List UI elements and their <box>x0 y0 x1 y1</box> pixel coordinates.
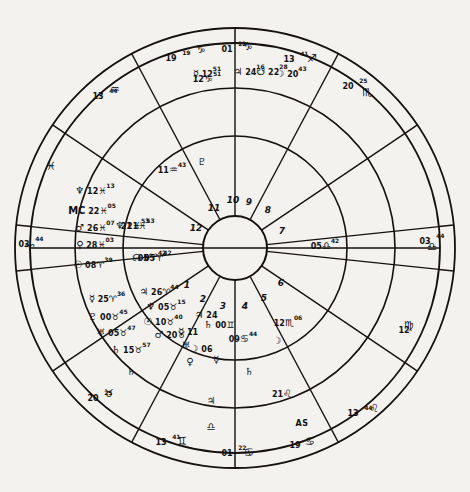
inner-cusp-leo-21: 21♌ <box>272 384 292 400</box>
cusp-line-10 <box>31 251 203 269</box>
planet-pluto-taurus: ♇ 00♉45 <box>88 307 127 323</box>
zodiac-divider-11 <box>16 225 31 227</box>
inner-cusp-aquarius-11: 11♒43 <box>158 160 186 176</box>
cusp-scorpio-20: 20 25 <box>342 76 367 92</box>
cusp-aquarius-13: 13 44 <box>92 86 117 102</box>
planet-pluto-aquarius: ♇ <box>198 152 207 168</box>
planet-saturn-gemini: ♄ 00♊ <box>204 315 235 331</box>
house-number-4: 4 <box>242 301 248 311</box>
planet-uranus-taurus: ♅ 05♉47 <box>96 323 135 339</box>
zodiac-divider-1 <box>331 54 338 67</box>
cusp-aries-03-ascendant: 03 44 <box>18 234 43 250</box>
planet-saturn-cancer: ♄ <box>245 362 254 378</box>
inner-cusp-cancer-09: 09♋44 <box>229 329 257 345</box>
cusp-leo-13-ascendant-side: 13 44 <box>347 403 372 419</box>
zodiac-divider-6 <box>331 429 338 442</box>
planet-libra-bottom: ♎ <box>207 417 216 433</box>
planet-jupiter-aries: ♃ 26♈44 <box>139 282 178 298</box>
planet-mercury-aries: ☿ 25♈36 <box>89 289 126 305</box>
planet-saturn-taurus: ♄ 15♉57 <box>111 340 150 356</box>
cusp-libra-03-descendant: 03 44 <box>419 231 444 247</box>
cusp-capricorn-19: 19 19 <box>165 48 190 64</box>
house-number-1: 1 <box>184 280 190 290</box>
planet-north-node-aries: ☊ 05♈42 <box>132 248 171 264</box>
cusp-gemini-13: 13 41 <box>155 432 180 448</box>
ascendant-label: AS <box>296 419 309 428</box>
cusp-line-4 <box>267 251 439 269</box>
astrology-chart-wheel: 12345678910111219 1901 2213 4120 2503 44… <box>0 0 470 492</box>
planet-neptune-taurus: ♆ 05♉15 <box>146 297 185 313</box>
house-number-8: 8 <box>265 205 271 215</box>
planet-sun-aries: ☉ 08♈39 <box>73 255 112 271</box>
inner-cusp-libra-05: 05♎42 <box>311 236 339 252</box>
house-number-5: 5 <box>261 293 267 303</box>
house-number-2: 2 <box>200 294 206 304</box>
house-number-6: 6 <box>278 278 284 288</box>
planet-venus-inner: ♀ <box>186 352 193 368</box>
planet-neptune-inner: ♆ 21♓53 <box>115 216 154 232</box>
cusp-line-3 <box>267 227 439 245</box>
top-moon-sagittarius: ☽ 2043 <box>275 64 306 80</box>
cusp-line-2 <box>262 133 405 230</box>
cusp-capricorn-01: 01 22 <box>221 39 246 55</box>
house-number-11: 11 <box>208 203 221 213</box>
planet-uranus-inner: ♅ <box>182 336 191 352</box>
inner-cusp-scorpio-12: 12♏06 <box>274 313 302 329</box>
house-number-9: 9 <box>246 197 252 207</box>
house-number-7: 7 <box>279 226 285 236</box>
planet-jupiter-bottom: ♃ <box>207 391 216 407</box>
house-number-10: 10 <box>227 195 240 205</box>
cusp-cancer-19: 19 <box>289 435 300 451</box>
cusp-taurus-20: 20 25 <box>87 388 112 404</box>
zodiac-divider-2 <box>405 125 417 133</box>
planet-mercury-lower: ☿ <box>213 350 219 366</box>
house-number-12: 12 <box>190 223 203 233</box>
zodiac-divider-9 <box>53 363 65 371</box>
house-number-3: 3 <box>220 301 226 311</box>
zodiac-divider-10 <box>16 269 31 271</box>
top-mercury-capricorn: ☿ 1251 <box>193 64 221 80</box>
cusp-virgo-12: 12 <box>398 320 409 336</box>
zodiac-divider-13 <box>132 54 139 67</box>
planet-moon-scorpio: ☽ <box>273 331 282 347</box>
zodiac-divider-3 <box>439 225 454 227</box>
planet-neptune-pisces: ♆ 12♓13 <box>75 181 114 197</box>
planet-mars-pisces: ♂ 26♓07 <box>75 218 114 234</box>
zodiac-divider-8 <box>132 429 139 442</box>
planet-mc-pisces: MC 22♓05 <box>68 201 116 217</box>
zodiac-divider-12 <box>53 125 65 133</box>
zodiac-divider-4 <box>439 269 454 271</box>
cusp-cancer-01: 01 22 <box>221 443 246 459</box>
planet-venus-pisces: ♀ 28♓03 <box>76 235 114 251</box>
planet-saturn-lower-left: ♄ <box>127 362 136 378</box>
zodiac-divider-5 <box>405 363 417 371</box>
